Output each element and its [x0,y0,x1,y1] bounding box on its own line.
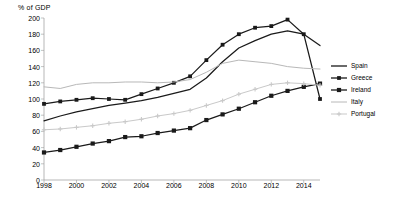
data-point-marker [155,114,159,118]
data-point-marker [156,131,160,135]
data-point-marker [318,97,322,101]
data-point-marker [220,112,224,116]
data-point-marker [285,81,289,85]
data-point-marker [188,126,192,130]
y-tick-label-160: 160 [28,47,40,54]
legend-label-spain: Spain [351,61,368,71]
data-point-marker [156,87,160,91]
legend-item-greece[interactable]: Greece [330,72,400,84]
data-point-marker [221,43,225,47]
data-point-marker [188,108,192,112]
data-point-marker [172,128,176,132]
legend-item-spain[interactable]: Spain [330,60,400,72]
data-point-marker [337,88,341,92]
legend-key-portugal [330,109,348,119]
data-point-marker [107,121,111,125]
y-tick-label-140: 140 [28,63,40,70]
legend-label-portugal: Portugal [351,109,375,119]
data-point-marker [107,97,111,101]
series-canvas [44,18,320,180]
y-axis-title: % of GDP [18,4,51,11]
data-point-marker [269,94,273,98]
x-tick-label-2014: 2014 [296,182,312,189]
legend-item-italy[interactable]: Italy [330,96,400,108]
y-tick-label-100: 100 [28,96,40,103]
data-point-marker [140,92,144,96]
legend-key-ireland [330,85,348,95]
x-axis-tick-labels: 199820002002200420062008201020122014 [30,182,340,202]
data-point-marker [139,117,143,121]
data-point-marker [74,145,78,149]
data-point-marker [75,98,79,102]
data-point-marker [58,148,62,152]
data-point-marker [220,98,224,102]
data-point-marker [253,87,257,91]
legend-key-spain [330,61,348,71]
data-point-marker [285,89,289,93]
data-point-marker [172,111,176,115]
data-point-marker [204,118,208,122]
y-tick-label-60: 60 [32,128,40,135]
legend-label-italy: Italy [351,97,363,107]
series-line-spain [44,31,320,121]
chart-container: % of GDP 020406080100120140160180200 199… [0,0,402,208]
data-point-marker [237,92,241,96]
data-point-marker [91,96,95,100]
data-point-marker [74,125,78,129]
data-point-marker [139,134,143,138]
data-point-marker [204,58,208,62]
data-point-marker [123,98,127,102]
data-point-marker [253,100,257,104]
series-line-italy [44,60,320,88]
legend-key-greece [330,73,348,83]
chart-legend: SpainGreeceIrelandItalyPortugal [330,60,400,120]
y-axis-tick-labels: 020406080100120140160180200 [0,12,40,186]
data-point-marker [123,119,127,123]
series-line-portugal [44,83,320,130]
data-point-marker [123,135,127,139]
data-point-marker [204,103,208,107]
data-point-marker [237,107,241,111]
data-point-marker [269,82,273,86]
x-tick-label-1998: 1998 [36,182,52,189]
y-tick-label-40: 40 [32,144,40,151]
data-point-marker [107,139,111,143]
x-tick-label-2004: 2004 [134,182,150,189]
data-point-marker [188,74,192,78]
y-tick-label-200: 200 [28,15,40,22]
y-tick-label-20: 20 [32,160,40,167]
data-point-marker [253,26,257,30]
x-tick-label-2008: 2008 [199,182,215,189]
data-point-marker [91,124,95,128]
data-point-marker [237,32,241,36]
data-point-marker [337,112,341,116]
data-point-marker [337,76,341,80]
data-point-marker [58,100,62,104]
plot-area [44,18,320,180]
legend-label-ireland: Ireland [351,85,371,95]
legend-item-ireland[interactable]: Ireland [330,84,400,96]
y-tick-label-120: 120 [28,79,40,86]
data-point-marker [91,141,95,145]
x-tick-label-2002: 2002 [101,182,117,189]
data-point-marker [42,102,46,106]
y-tick-label-180: 180 [28,31,40,38]
data-point-marker [302,32,306,36]
x-tick-label-2006: 2006 [166,182,182,189]
legend-key-italy [330,97,348,107]
series-line-ireland [44,84,320,153]
x-tick-label-2000: 2000 [69,182,85,189]
y-tick-label-80: 80 [32,112,40,119]
legend-item-portugal[interactable]: Portugal [330,108,400,120]
data-point-marker [269,24,273,28]
data-point-marker [286,18,290,22]
x-tick-label-2012: 2012 [263,182,279,189]
legend-label-greece: Greece [351,73,372,83]
data-point-marker [42,150,46,154]
x-tick-label-2010: 2010 [231,182,247,189]
data-point-marker [58,127,62,131]
